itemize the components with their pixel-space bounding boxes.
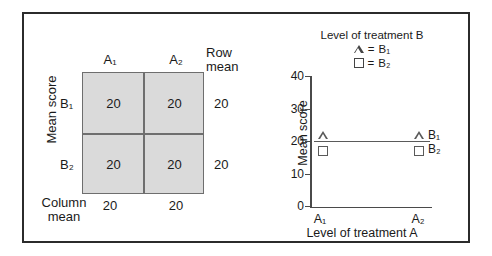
data-point-b2-a1: [318, 146, 328, 156]
legend-item-b2: = B₂: [282, 56, 462, 70]
y-tick-10: [305, 174, 310, 175]
y-tick-30: [305, 109, 310, 110]
y-tick-40: [305, 76, 310, 77]
y-axis-line: [310, 76, 312, 208]
row-mean-value-b2: 20: [214, 157, 228, 172]
matrix-y-axis-label: Mean score: [44, 76, 59, 144]
x-axis-line: [310, 207, 432, 209]
y-tick-label-40: 40: [278, 69, 304, 83]
plot-panel: Level of treatment B = B₁ = B₂ Mean scor…: [252, 14, 472, 245]
y-tick-label-0: 0: [278, 199, 304, 213]
legend-title: Level of treatment B: [282, 28, 462, 42]
matrix-column-header-a1: A₁: [80, 52, 140, 67]
y-tick-label-20: 20: [278, 134, 304, 148]
matrix-cell-b1-a2: 20: [144, 73, 205, 134]
column-mean-value-a1: 20: [80, 198, 140, 213]
legend-item-b1: = B₁: [282, 42, 462, 56]
series-line-b1-b2: [314, 141, 430, 142]
matrix-row-label-b1: B₁: [60, 96, 73, 111]
matrix-row-label-b2: B₂: [60, 157, 74, 172]
legend-equals-b1: =: [368, 42, 375, 56]
plot-area: 40 30 20 10 0 B₁ B₂ A₁ A₂: [310, 76, 432, 208]
plot-x-axis-label: Level of treatment A: [272, 226, 452, 240]
x-tick-label-a1: A₁: [300, 212, 340, 226]
matrix-panel: Mean score A₁ A₂ Row mean 20 20 20 20 B₁…: [24, 14, 252, 245]
row-mean-header-line1: Row: [206, 46, 252, 60]
legend: Level of treatment B = B₁ = B₂: [282, 28, 462, 70]
y-tick-0: [305, 206, 310, 207]
data-point-b1-a2: [414, 131, 424, 139]
legend-label-b2: B₂: [378, 56, 390, 70]
matrix-cell-b2-a1: 20: [83, 134, 144, 195]
row-mean-value-b1: 20: [214, 96, 228, 111]
matrix-column-header-a2: A₂: [146, 52, 206, 67]
data-point-label-b1: B₁: [428, 128, 440, 142]
figure-frame: Mean score A₁ A₂ Row mean 20 20 20 20 B₁…: [22, 12, 470, 243]
matrix-cell-b2-a2: 20: [144, 134, 205, 195]
triangle-outline-icon: [354, 45, 364, 53]
row-mean-header-line2: mean: [206, 60, 252, 74]
data-point-label-b2: B₂: [428, 142, 441, 156]
two-by-two-matrix: 20 20 20 20: [82, 72, 204, 194]
y-tick-label-10: 10: [278, 167, 304, 181]
x-tick-label-a2: A₂: [398, 212, 438, 226]
column-mean-value-a2: 20: [146, 198, 206, 213]
matrix-cell-b1-a1: 20: [83, 73, 144, 134]
data-point-b1-a1: [318, 131, 328, 139]
square-outline-icon: [354, 58, 364, 68]
y-tick-label-30: 30: [278, 102, 304, 116]
y-tick-20: [305, 141, 310, 142]
legend-label-b1: B₁: [379, 42, 391, 56]
legend-equals-b2: =: [368, 56, 375, 70]
data-point-b2-a2: [414, 146, 424, 156]
row-mean-header: Row mean: [206, 46, 252, 74]
